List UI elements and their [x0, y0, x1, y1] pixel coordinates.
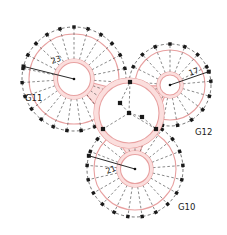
gear-name-label-g12: G12: [195, 127, 212, 137]
gear-tooth-marker: [45, 32, 50, 37]
gear-tooth-marker: [99, 32, 104, 37]
carrier-pin-marker: [118, 101, 122, 105]
gear-tooth-marker: [153, 45, 157, 49]
gear-tooth-line: [89, 44, 112, 66]
gear-tooth-marker: [209, 79, 213, 83]
gear-diagram-canvas: G1123G1217G1021: [0, 0, 227, 235]
gear-tooth-marker: [168, 42, 171, 45]
gear-tooth-marker: [181, 164, 185, 168]
gear-tooth-marker: [26, 53, 31, 58]
carrier-pin-marker: [154, 127, 158, 131]
carrier-pin-marker: [128, 80, 132, 84]
gear-tooth-line: [77, 99, 81, 131]
gear-tooth-line: [67, 99, 71, 131]
gear-center-point: [134, 168, 137, 171]
gear-tooth-marker: [85, 164, 89, 168]
carrier-pin-marker: [127, 111, 131, 115]
gear-tooth-line: [128, 187, 132, 217]
gear-tooth-marker: [118, 53, 123, 58]
gear-tooth-marker: [88, 149, 92, 153]
gear-center-point: [73, 78, 76, 81]
gear-center-point: [169, 84, 172, 87]
gear-tooth-marker: [79, 129, 83, 133]
gear-tooth-line: [183, 89, 210, 97]
gear-tooth-line: [138, 187, 142, 217]
carrier-pin-marker: [140, 115, 144, 119]
gear-tooth-marker: [29, 107, 34, 112]
gear-tooth-marker: [72, 25, 75, 28]
gear-tooth-line: [23, 68, 54, 75]
gear-tooth-marker: [204, 64, 209, 69]
gear-tooth-marker: [65, 129, 69, 133]
gear-teeth-label-g12: 17: [187, 66, 200, 78]
gear-tooth-marker: [20, 81, 24, 85]
carrier-pin-marker: [101, 127, 105, 131]
gear-tooth-line: [153, 165, 183, 167]
gear-tooth-marker: [86, 27, 90, 31]
gear-name-label-g10: G10: [178, 202, 195, 212]
gear-tooth-marker: [140, 215, 144, 219]
gear-tooth-marker: [165, 202, 170, 207]
gear-tooth-line: [79, 29, 88, 60]
gear-tooth-line: [172, 98, 177, 126]
gear-radius-endpoint-marker: [87, 154, 91, 158]
gear-tooth-marker: [91, 191, 96, 196]
gear-tooth-marker: [154, 210, 159, 215]
gear-tooth-marker: [131, 64, 136, 69]
gear-tooth-line: [180, 93, 202, 110]
gear-tooth-marker: [86, 178, 90, 182]
gear-tooth-marker: [183, 45, 187, 49]
gear-tooth-marker: [174, 191, 179, 196]
gear-tooth-line: [142, 55, 161, 76]
gear-tooth-line: [147, 182, 167, 204]
gear-tooth-marker: [207, 94, 211, 98]
gear-tooth-line: [60, 29, 69, 60]
gear-radius-endpoint-marker: [207, 70, 211, 74]
gear-radius-endpoint-marker: [22, 64, 26, 68]
gear-tooth-line: [53, 97, 66, 126]
gear-name-label-g11: G11: [25, 93, 42, 103]
gear-tooth-marker: [177, 149, 181, 153]
gear-tooth-line: [94, 68, 125, 75]
carrier-layer: [94, 78, 164, 148]
gear-diagram-svg: G1123G1217G1021: [0, 0, 227, 235]
gear-tooth-marker: [126, 215, 130, 219]
gear-tooth-line: [149, 139, 172, 158]
carrier-body[interactable]: [94, 78, 164, 148]
gear-tooth-line: [183, 81, 211, 84]
gear-tooth-line: [153, 173, 182, 180]
gear-teeth-label-g10: 21: [104, 164, 117, 176]
gear-tooth-marker: [51, 124, 55, 128]
gear-tooth-line: [102, 182, 122, 204]
gear-tooth-marker: [123, 66, 127, 70]
gear-tooth-line: [22, 80, 54, 82]
gear-tooth-marker: [189, 118, 194, 123]
gear-tooth-marker: [180, 178, 184, 182]
gear-tooth-marker: [112, 210, 117, 215]
gear-tooth-marker: [176, 123, 180, 127]
gear-tooth-marker: [58, 27, 62, 31]
gear-tooth-line: [88, 173, 117, 180]
